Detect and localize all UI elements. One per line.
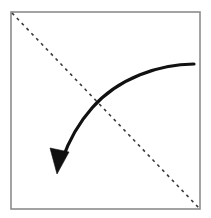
canvas-background (0, 0, 211, 218)
diagram-svg (0, 0, 211, 218)
figure-canvas: square frame dashed diagonal curved arro… (0, 0, 211, 218)
